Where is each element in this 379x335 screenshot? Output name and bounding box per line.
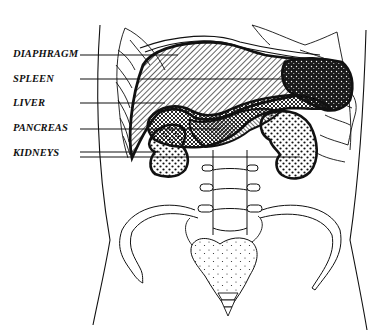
kidney-right <box>261 111 317 178</box>
sacroiliac-edge-left <box>186 218 192 245</box>
sacroiliac-edge-right <box>252 216 262 242</box>
coccyx <box>218 293 238 316</box>
label-diaphragm: DIAPHRAGM <box>13 48 78 60</box>
spine <box>198 150 262 235</box>
label-spleen: SPLEEN <box>13 73 54 85</box>
label-pancreas: PANCREAS <box>13 122 68 134</box>
kidney-left <box>149 125 188 177</box>
label-liver: LIVER <box>13 97 45 109</box>
label-kidneys: KIDNEYS <box>13 147 59 159</box>
